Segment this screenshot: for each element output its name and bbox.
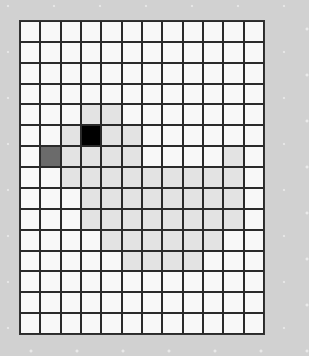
grid-cell-empty[interactable] [245, 293, 263, 312]
grid-cell-light[interactable] [204, 168, 222, 187]
grid-cell-empty[interactable] [41, 105, 59, 124]
grid-cell-empty[interactable] [204, 293, 222, 312]
grid-cell-empty[interactable] [184, 272, 202, 291]
grid-cell-light[interactable] [82, 147, 100, 166]
grid-cell-light[interactable] [62, 126, 80, 145]
grid-cell-empty[interactable] [224, 252, 242, 271]
grid-cell-empty[interactable] [21, 85, 39, 104]
grid-cell-empty[interactable] [62, 293, 80, 312]
grid-cell-empty[interactable] [224, 272, 242, 291]
grid-cell-empty[interactable] [184, 43, 202, 62]
grid-cell-empty[interactable] [102, 43, 120, 62]
grid-cell-black[interactable] [82, 126, 100, 145]
grid-cell-empty[interactable] [245, 43, 263, 62]
grid-cell-empty[interactable] [102, 85, 120, 104]
grid-cell-light[interactable] [82, 189, 100, 208]
grid-cell-empty[interactable] [62, 43, 80, 62]
grid-cell-empty[interactable] [204, 126, 222, 145]
grid-cell-empty[interactable] [41, 314, 59, 333]
grid-cell-empty[interactable] [123, 272, 141, 291]
grid-cell-empty[interactable] [143, 126, 161, 145]
grid-cell-light[interactable] [184, 210, 202, 229]
grid-cell-empty[interactable] [143, 43, 161, 62]
grid-cell-light[interactable] [123, 168, 141, 187]
grid-cell-empty[interactable] [245, 22, 263, 41]
grid-cell-empty[interactable] [204, 272, 222, 291]
grid-cell-light[interactable] [102, 231, 120, 250]
grid-cell-empty[interactable] [245, 272, 263, 291]
grid-cell-empty[interactable] [82, 64, 100, 83]
grid-cell-empty[interactable] [21, 189, 39, 208]
grid-cell-light[interactable] [224, 189, 242, 208]
grid-cell-empty[interactable] [163, 105, 181, 124]
grid-cell-empty[interactable] [245, 168, 263, 187]
grid-cell-empty[interactable] [245, 189, 263, 208]
grid-cell-empty[interactable] [163, 147, 181, 166]
grid-cell-empty[interactable] [21, 314, 39, 333]
grid-cell-empty[interactable] [224, 231, 242, 250]
grid-cell-empty[interactable] [163, 85, 181, 104]
grid-cell-empty[interactable] [245, 85, 263, 104]
grid-cell-empty[interactable] [62, 272, 80, 291]
grid-cell-empty[interactable] [245, 147, 263, 166]
grid-cell-light[interactable] [123, 231, 141, 250]
grid-cell-empty[interactable] [41, 293, 59, 312]
grid-cell-empty[interactable] [62, 210, 80, 229]
grid-cell-light[interactable] [204, 189, 222, 208]
grid-cell-empty[interactable] [184, 314, 202, 333]
grid-cell-empty[interactable] [184, 22, 202, 41]
grid-cell-empty[interactable] [123, 85, 141, 104]
grid-cell-light[interactable] [62, 147, 80, 166]
grid-cell-light[interactable] [163, 231, 181, 250]
grid-cell-empty[interactable] [41, 168, 59, 187]
grid-cell-empty[interactable] [102, 293, 120, 312]
grid-cell-empty[interactable] [82, 85, 100, 104]
grid-cell-empty[interactable] [245, 252, 263, 271]
grid-cell-light[interactable] [163, 168, 181, 187]
grid-cell-empty[interactable] [41, 252, 59, 271]
grid-cell-empty[interactable] [184, 147, 202, 166]
grid-cell-empty[interactable] [123, 105, 141, 124]
grid-cell-empty[interactable] [184, 64, 202, 83]
grid-cell-empty[interactable] [21, 43, 39, 62]
grid-cell-empty[interactable] [62, 105, 80, 124]
grid-cell-empty[interactable] [82, 293, 100, 312]
grid-cell-empty[interactable] [21, 105, 39, 124]
grid-cell-light[interactable] [143, 210, 161, 229]
grid-cell-light[interactable] [163, 252, 181, 271]
grid-cell-empty[interactable] [245, 64, 263, 83]
grid-cell-empty[interactable] [184, 85, 202, 104]
grid-cell-light[interactable] [62, 168, 80, 187]
grid-cell-empty[interactable] [204, 252, 222, 271]
grid-cell-empty[interactable] [143, 272, 161, 291]
grid-cell-empty[interactable] [184, 105, 202, 124]
grid-cell-light[interactable] [204, 210, 222, 229]
grid-cell-empty[interactable] [123, 293, 141, 312]
grid-cell-empty[interactable] [204, 85, 222, 104]
grid-cell-light[interactable] [143, 252, 161, 271]
grid-cell-empty[interactable] [163, 22, 181, 41]
grid-cell-empty[interactable] [123, 64, 141, 83]
grid-cell-empty[interactable] [224, 293, 242, 312]
grid-cell-empty[interactable] [163, 64, 181, 83]
grid-cell-light[interactable] [123, 126, 141, 145]
grid-cell-light[interactable] [143, 189, 161, 208]
grid-cell-empty[interactable] [82, 314, 100, 333]
grid-cell-empty[interactable] [224, 126, 242, 145]
grid-cell-empty[interactable] [143, 64, 161, 83]
grid-cell-empty[interactable] [41, 272, 59, 291]
grid-cell-empty[interactable] [224, 314, 242, 333]
grid-cell-empty[interactable] [62, 189, 80, 208]
grid-cell-empty[interactable] [123, 314, 141, 333]
grid-cell-light[interactable] [102, 105, 120, 124]
grid-cell-light[interactable] [143, 231, 161, 250]
grid-cell-empty[interactable] [21, 231, 39, 250]
grid-cell-light[interactable] [123, 147, 141, 166]
grid-cell-empty[interactable] [224, 105, 242, 124]
grid-cell-empty[interactable] [245, 210, 263, 229]
grid-cell-empty[interactable] [21, 272, 39, 291]
grid-cell-empty[interactable] [102, 252, 120, 271]
grid-cell-light[interactable] [123, 210, 141, 229]
grid-cell-empty[interactable] [245, 314, 263, 333]
grid-cell-empty[interactable] [204, 105, 222, 124]
